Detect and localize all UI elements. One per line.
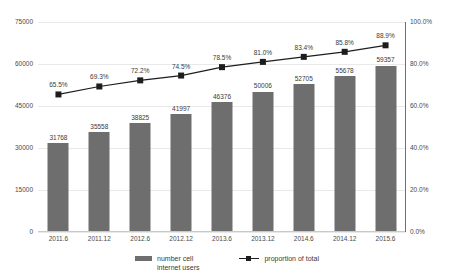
y-axis-right-tick: 20.0% (410, 187, 428, 194)
chart-container: 01500030000450006000075000 0.0%20.0%40.0… (0, 0, 454, 280)
line-marker[interactable] (342, 49, 348, 55)
x-axis-tick: 2015.6 (376, 236, 396, 243)
plot-area: 3176835558388254199746376500065270555678… (38, 22, 406, 232)
legend-bar-swatch-icon (135, 256, 152, 261)
line-marker[interactable] (96, 83, 102, 89)
y-axis-left-tick: 15000 (15, 187, 33, 194)
y-axis-left-tick: 45000 (15, 103, 33, 110)
x-axis-tick: 2011.12 (88, 236, 111, 243)
y-axis-right-tick: 80.0% (410, 61, 428, 68)
line-value-label: 74.5% (172, 63, 190, 70)
legend-label-bars: number cell internet users (157, 254, 199, 273)
legend-line-marker-icon (239, 255, 259, 262)
line-marker[interactable] (301, 54, 307, 60)
x-axis-tick: 2014.12 (333, 236, 357, 243)
y-axis-left-tick: 60000 (15, 61, 33, 68)
x-axis-tick: 2012.12 (169, 236, 193, 243)
line-value-label: 81.0% (254, 49, 272, 56)
chart-legend: number cell internet users proportion of… (0, 254, 454, 280)
y-axis-right-tick: 40.0% (410, 145, 428, 152)
line-marker[interactable] (383, 42, 389, 48)
line-value-label: 88.9% (376, 33, 394, 40)
y-axis-left-tick: 75000 (15, 19, 33, 26)
y-axis-left-tick: 30000 (15, 145, 33, 152)
x-axis: 2011.62011.122012.62012.122013.62013.122… (38, 236, 406, 248)
line-value-label: 85.8% (335, 39, 353, 46)
line-value-label: 69.3% (90, 74, 108, 81)
line-value-label: 72.2% (131, 68, 149, 75)
y-axis-right-tick: 60.0% (410, 103, 428, 110)
line-marker[interactable] (178, 73, 184, 79)
right-axis-line (405, 22, 406, 232)
legend-item-number-cell-internet-users[interactable]: number cell internet users (135, 254, 199, 273)
line-marker[interactable] (55, 91, 61, 97)
line-marker[interactable] (219, 64, 225, 70)
legend-label-line: proportion of total (264, 254, 318, 263)
y-axis-left-tick: 0 (29, 229, 33, 236)
line-value-label: 78.5% (213, 55, 231, 62)
line-marker[interactable] (260, 59, 266, 65)
x-axis-tick: 2012.6 (130, 236, 150, 243)
line-value-label: 65.5% (49, 82, 67, 89)
x-axis-tick: 2014.6 (294, 236, 314, 243)
x-axis-line (38, 231, 406, 232)
x-axis-tick: 2013.12 (251, 236, 275, 243)
y-axis-right-tick: 0.0% (410, 229, 425, 236)
gridline (38, 232, 406, 233)
line-value-label: 83.4% (295, 44, 313, 51)
y-axis-right-tick: 100.0% (410, 19, 432, 26)
x-axis-tick: 2011.6 (49, 236, 68, 243)
legend-item-proportion-of-total[interactable]: proportion of total (239, 254, 318, 263)
line-marker[interactable] (137, 77, 143, 83)
y-axis-right: 0.0%20.0%40.0%60.0%80.0%100.0% (410, 22, 454, 232)
x-axis-tick: 2013.6 (212, 236, 232, 243)
y-axis-left: 01500030000450006000075000 (0, 22, 33, 232)
